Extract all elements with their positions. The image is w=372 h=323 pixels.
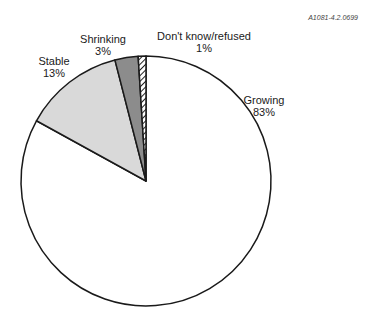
label-shrinking: Shrinking 3% (63, 33, 143, 57)
label-dont-know: Don't know/refused 1% (144, 30, 264, 54)
label-dont-know-name: Don't know/refused (144, 30, 264, 42)
label-stable: Stable 13% (14, 55, 94, 79)
label-dont-know-pct: 1% (144, 42, 264, 54)
label-shrinking-pct: 3% (63, 45, 143, 57)
label-growing-name: Growing (224, 94, 304, 106)
label-shrinking-name: Shrinking (63, 33, 143, 45)
label-stable-pct: 13% (14, 67, 94, 79)
label-growing: Growing 83% (224, 94, 304, 118)
label-growing-pct: 83% (224, 106, 304, 118)
